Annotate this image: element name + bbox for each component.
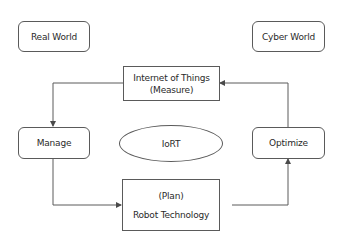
- arrow-manage-to-robot: [53, 158, 121, 205]
- arrow-optimize-to-iot: [220, 83, 288, 127]
- manage-label: Manage: [37, 137, 72, 149]
- plan-label: (Plan): [159, 190, 184, 202]
- iort-cycle-diagram: Real World Cyber World Internet of Thing…: [0, 0, 341, 236]
- robot-plan-node: (Plan) Robot Technology: [122, 179, 220, 231]
- manage-node: Manage: [18, 127, 90, 159]
- iort-label: IoRT: [162, 138, 180, 150]
- iot-label: Internet of Things: [133, 72, 209, 84]
- cyber-world-label: Cyber World: [262, 31, 315, 43]
- arrow-iot-to-manage: [53, 83, 123, 126]
- iot-measure-node: Internet of Things (Measure): [123, 66, 220, 101]
- optimize-label: Optimize: [269, 137, 308, 149]
- cyber-world-node: Cyber World: [252, 21, 325, 52]
- measure-label: (Measure): [150, 84, 193, 96]
- arrow-robot-to-optimize: [232, 159, 288, 205]
- robot-technology-label: Robot Technology: [133, 209, 209, 221]
- real-world-node: Real World: [18, 21, 90, 52]
- iort-ellipse: IoRT: [119, 125, 223, 162]
- optimize-node: Optimize: [252, 127, 325, 159]
- real-world-label: Real World: [31, 31, 77, 43]
